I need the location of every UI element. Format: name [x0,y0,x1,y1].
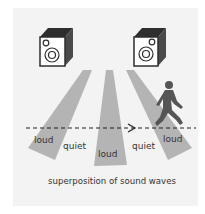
diagram-canvas: loud quiet loud quiet loud superposition… [0,0,205,214]
speaker-left-icon [40,28,73,66]
label-quiet-right: quiet [132,141,155,151]
label-loud-right: loud [163,134,182,144]
label-quiet-left: quiet [63,141,86,151]
speaker-right-icon [134,28,166,66]
label-loud-left: loud [34,135,53,145]
figure-caption: superposition of sound waves [48,176,176,186]
label-loud-center: loud [98,149,117,159]
